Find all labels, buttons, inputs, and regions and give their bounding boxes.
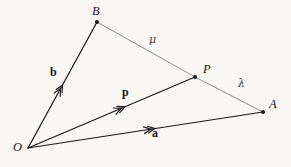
point-label-B: B (92, 5, 100, 18)
vector-label-a: a (152, 127, 158, 139)
vector-label-p: p (122, 86, 129, 98)
point-dot-A (261, 110, 265, 114)
vector-a (28, 112, 263, 148)
arrowheads-group (54, 85, 155, 134)
segment-B-P (97, 22, 195, 77)
point-dot-B (95, 20, 99, 24)
point-label-A: A (269, 98, 277, 111)
point-label-P: P (203, 63, 211, 76)
segment-label-mu: μ (149, 34, 156, 45)
point-label-O: O (13, 141, 22, 154)
vector-diagram-figure: O B P A b p a μ λ (0, 0, 291, 167)
segment-label-lambda: λ (238, 78, 245, 89)
segment-P-A (195, 77, 263, 112)
vector-p (28, 77, 195, 148)
vectors-group (28, 22, 263, 148)
vector-label-b: b (50, 66, 57, 78)
point-dot-P (193, 75, 197, 79)
diagram-canvas (0, 0, 291, 167)
